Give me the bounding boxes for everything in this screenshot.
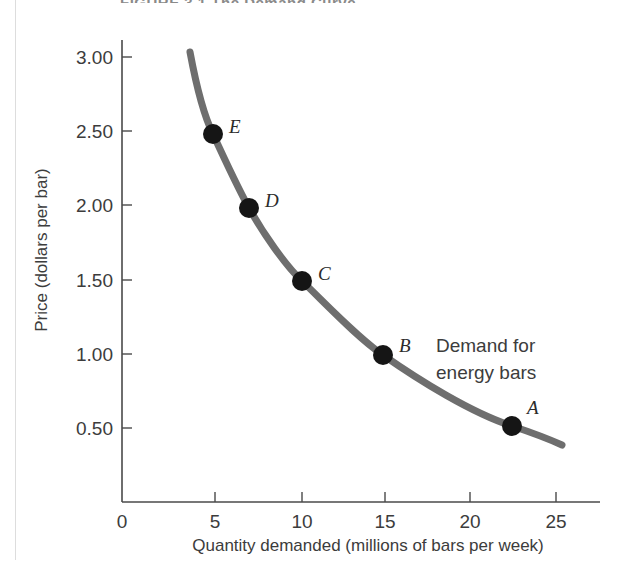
data-point-e <box>203 124 223 144</box>
y-tick-label-3: 1.50 <box>76 270 113 291</box>
y-tick-label-2: 2.00 <box>76 195 113 216</box>
data-point-label-d: D <box>264 190 279 211</box>
x-tick-label-1: 5 <box>210 511 221 532</box>
data-point-b <box>373 345 393 365</box>
y-axis-title: Price (dollars per bar) <box>32 168 51 331</box>
data-point-label-a: A <box>525 397 539 418</box>
y-tick-label-5: 0.50 <box>76 418 113 439</box>
data-point-markers <box>203 124 522 436</box>
curve-annotation-line1: Demand for <box>436 335 536 356</box>
demand-curve-line <box>190 52 562 445</box>
y-tick-label-4: 1.00 <box>76 344 113 365</box>
demand-curve-chart: 3.00 2.50 2.00 1.50 1.00 0.50 0 5 10 15 … <box>0 0 636 584</box>
x-tick-labels: 0 5 10 15 20 25 <box>117 511 567 532</box>
curve-annotation: Demand for energy bars <box>436 335 536 383</box>
x-tick-label-3: 15 <box>374 511 395 532</box>
data-point-d <box>239 198 259 218</box>
y-tick-label-1: 2.50 <box>76 121 113 142</box>
y-tick-marks <box>122 57 132 428</box>
y-tick-label-0: 3.00 <box>76 47 113 68</box>
x-tick-label-4: 20 <box>459 511 480 532</box>
x-tick-label-0: 0 <box>117 511 128 532</box>
x-axis-title: Quantity demanded (millions of bars per … <box>192 536 544 555</box>
figure-container: FIGURE 3.1 The Demand Curve 3.00 2.50 2.… <box>0 0 636 584</box>
curve-annotation-line2: energy bars <box>436 362 536 383</box>
x-tick-marks <box>215 492 556 502</box>
x-tick-label-5: 25 <box>545 511 566 532</box>
data-point-label-b: B <box>399 335 411 356</box>
data-point-label-c: C <box>318 263 331 284</box>
data-point-a <box>502 416 522 436</box>
y-tick-labels: 3.00 2.50 2.00 1.50 1.00 0.50 <box>76 47 113 439</box>
x-tick-label-2: 10 <box>291 511 312 532</box>
data-point-c <box>292 271 312 291</box>
data-point-label-e: E <box>228 116 241 137</box>
